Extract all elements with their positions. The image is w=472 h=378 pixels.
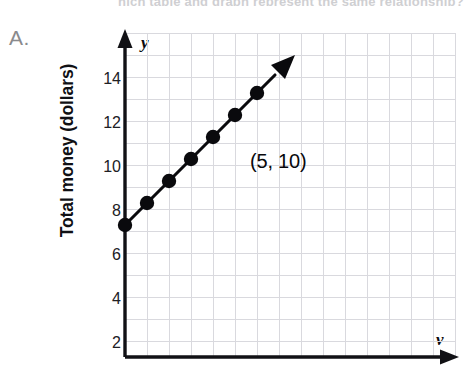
data-point (250, 86, 264, 100)
data-point (184, 152, 198, 166)
data-point (118, 218, 132, 232)
data-point (162, 174, 176, 188)
cut-off-header-text: hich table and graph represent the same … (118, 0, 472, 6)
y-tick-label-10: 10 (87, 158, 121, 176)
y-axis-title: Total money (dollars) (57, 36, 78, 266)
y-tick-label-12: 12 (87, 114, 121, 132)
x-axis (125, 350, 459, 365)
y-tick-label-6: 6 (87, 246, 121, 264)
y-tick-label-14: 14 (87, 70, 121, 88)
data-point (206, 130, 220, 144)
point-coordinate-annotation: (5, 10) (250, 150, 306, 173)
coordinate-plane (125, 33, 455, 357)
data-point (228, 108, 242, 122)
item-letter-label: A. (9, 26, 30, 50)
y-tick-label-2: 2 (87, 334, 121, 352)
plot-contents (125, 33, 455, 357)
y-tick-label-8: 8 (87, 202, 121, 220)
data-point (140, 196, 154, 210)
worksheet-figure: hich table and graph represent the same … (0, 0, 472, 378)
y-tick-label-4: 4 (87, 290, 121, 308)
